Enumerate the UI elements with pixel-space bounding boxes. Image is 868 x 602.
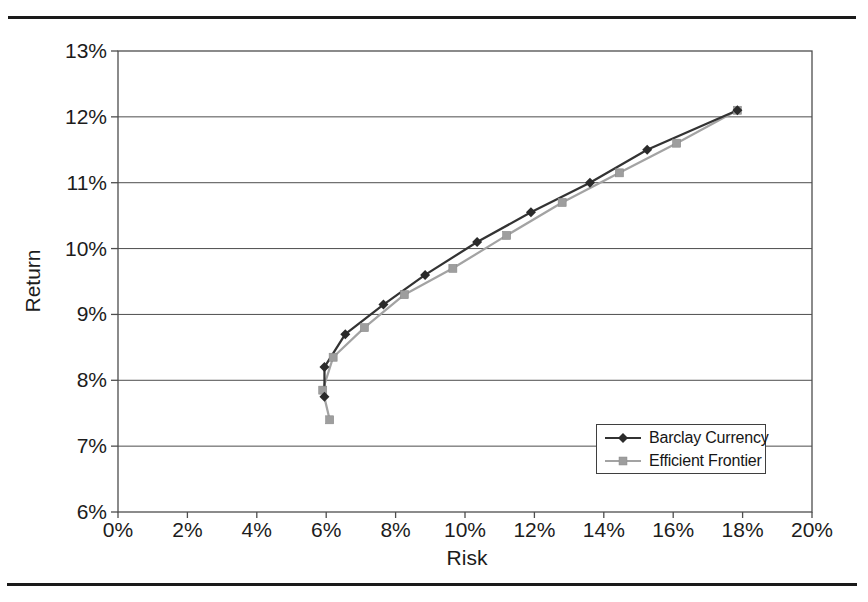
y-tick-label: 10% xyxy=(45,237,107,261)
legend-label: Barclay Currency xyxy=(649,429,769,447)
x-tick-label: 12% xyxy=(503,518,565,542)
y-tick-label: 9% xyxy=(45,302,107,326)
y-tick-label: 12% xyxy=(45,105,107,129)
x-tick-label: 16% xyxy=(642,518,704,542)
legend-item-efficient-frontier: Efficient Frontier xyxy=(604,450,765,472)
y-axis-title: Return xyxy=(21,249,45,312)
y-tick-label: 11% xyxy=(45,171,107,195)
x-tick-label: 2% xyxy=(156,518,218,542)
x-axis-title: Risk xyxy=(415,546,519,570)
x-tick-label: 4% xyxy=(226,518,288,542)
chart-plot xyxy=(0,0,868,602)
series-line-efficient-frontier xyxy=(323,110,738,420)
legend-label: Efficient Frontier xyxy=(649,452,762,470)
data-point-square xyxy=(449,264,457,272)
y-tick-label: 7% xyxy=(45,434,107,458)
data-point-square xyxy=(615,169,623,177)
data-point-square xyxy=(326,416,334,424)
data-point-square xyxy=(558,198,566,206)
x-tick-label: 6% xyxy=(295,518,357,542)
x-tick-label: 10% xyxy=(434,518,496,542)
data-point-square xyxy=(329,353,337,361)
data-point-square xyxy=(673,139,681,147)
data-point-square xyxy=(503,231,511,239)
series-line-barclay-currency xyxy=(324,110,737,396)
legend-item-barclay-currency: Barclay Currency xyxy=(604,427,765,449)
data-point-square xyxy=(400,291,408,299)
diamond-marker-icon xyxy=(604,432,642,444)
bottom-rule xyxy=(7,583,857,586)
x-tick-label: 0% xyxy=(87,518,149,542)
x-tick-label: 14% xyxy=(573,518,635,542)
square-marker-icon xyxy=(604,455,642,467)
data-point-diamond xyxy=(642,145,652,155)
data-point-diamond xyxy=(526,207,536,217)
x-tick-label: 18% xyxy=(712,518,774,542)
y-tick-label: 8% xyxy=(45,368,107,392)
y-tick-label: 13% xyxy=(45,39,107,63)
x-tick-label: 20% xyxy=(781,518,843,542)
legend: Barclay Currency Efficient Frontier xyxy=(596,424,766,474)
data-point-square xyxy=(360,324,368,332)
x-tick-label: 8% xyxy=(365,518,427,542)
